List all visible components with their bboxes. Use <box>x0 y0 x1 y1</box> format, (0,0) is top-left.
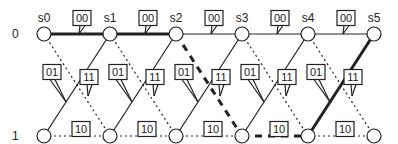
label-00-stage-4: 00 <box>337 11 355 35</box>
branch-label-text: 01 <box>178 66 190 78</box>
label-11-stage-1: 11 <box>146 70 164 97</box>
stage-label-s5: s5 <box>368 11 381 25</box>
label-01-stage-4: 01 <box>307 65 330 103</box>
node-s4-state-1 <box>301 129 315 143</box>
label-11-stage-0: 11 <box>80 70 98 97</box>
branch-label-text: 00 <box>142 12 154 24</box>
node-s0-state-0 <box>37 27 51 41</box>
stage-label-s4: s4 <box>302 11 315 25</box>
branch-label-text: 10 <box>273 123 285 135</box>
branch-label-text: 01 <box>46 66 58 78</box>
stage-label-s2: s2 <box>170 11 183 25</box>
branch-label-text: 00 <box>274 12 286 24</box>
label-01-stage-1: 01 <box>109 65 132 103</box>
label-10-stage-0: 10 <box>72 122 90 137</box>
branch-label-text: 11 <box>149 71 160 83</box>
stage-label-s3: s3 <box>236 11 249 25</box>
branch-label-text: 00 <box>76 12 88 24</box>
state-axis: 0 1 <box>12 27 19 143</box>
branch-label-text: 01 <box>310 66 322 78</box>
branch-label-text: 11 <box>215 71 226 83</box>
label-10-stage-4: 10 <box>336 122 354 137</box>
label-11-stage-4: 11 <box>344 70 362 97</box>
node-s3-state-1 <box>235 129 249 143</box>
branch-label-text: 01 <box>244 66 256 78</box>
branch-label-text: 10 <box>141 123 153 135</box>
stage-label-s1: s1 <box>104 11 117 25</box>
node-s2-state-1 <box>169 129 183 143</box>
trellis-diagram: 0001111000011110000111100001111000011110… <box>0 0 398 144</box>
label-00-stage-3: 00 <box>271 11 289 35</box>
node-s1-state-0 <box>103 27 117 41</box>
node-s1-state-1 <box>103 129 117 143</box>
node-s0-state-1 <box>37 129 51 143</box>
branch-label-text: 00 <box>208 12 220 24</box>
node-s4-state-0 <box>301 27 315 41</box>
node-s2-state-0 <box>169 27 183 41</box>
branch-label-text: 10 <box>207 123 219 135</box>
state-label-1: 1 <box>12 129 19 143</box>
label-10-stage-3: 10 <box>270 122 288 137</box>
branch-label-text: 10 <box>339 123 351 135</box>
branch-label-text: 01 <box>112 66 124 78</box>
node-s5-state-0 <box>367 27 381 41</box>
node-s5-state-1 <box>367 129 381 143</box>
label-10-stage-1: 10 <box>138 122 156 137</box>
label-00-stage-0: 00 <box>73 11 91 35</box>
label-01-stage-0: 01 <box>43 65 66 103</box>
branch-label-text: 11 <box>347 71 358 83</box>
branch-label-text: 10 <box>75 123 87 135</box>
label-01-stage-2: 01 <box>175 65 198 103</box>
label-11-stage-3: 11 <box>278 70 296 97</box>
branch-label-text: 00 <box>340 12 352 24</box>
stage-label-s0: s0 <box>38 11 51 25</box>
branch-label-text: 11 <box>83 71 94 83</box>
label-00-stage-1: 00 <box>139 11 157 35</box>
label-01-stage-3: 01 <box>241 65 264 103</box>
label-00-stage-2: 00 <box>205 11 223 35</box>
branch-labels: 0001111000011110000111100001111000011110 <box>43 11 362 137</box>
branch-label-text: 11 <box>281 71 292 83</box>
label-10-stage-2: 10 <box>204 122 222 137</box>
node-s3-state-0 <box>235 27 249 41</box>
state-label-0: 0 <box>12 27 19 41</box>
